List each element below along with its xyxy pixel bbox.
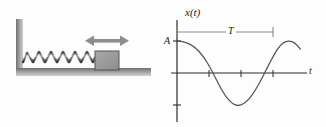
floor — [16, 68, 151, 76]
oscillation-arrow-icon — [85, 36, 129, 47]
xt-graph — [163, 0, 326, 127]
spring-mass-panel — [0, 0, 163, 127]
period-bracket — [177, 27, 273, 37]
block — [95, 51, 119, 70]
graph-panel: x(t) A T t — [163, 0, 326, 127]
wall — [16, 19, 23, 72]
amplitude-label: A — [164, 36, 170, 46]
period-label: T — [226, 26, 236, 36]
physics-figure: x(t) A T t — [0, 0, 326, 127]
spring-mass-diagram — [0, 0, 163, 127]
y-axis-label: x(t) — [185, 7, 200, 18]
x-axis-label: t — [309, 66, 312, 76]
